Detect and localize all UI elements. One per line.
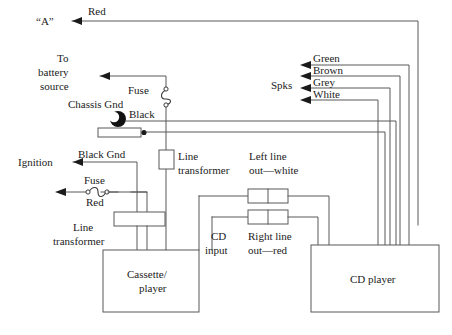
label-red-left: Red: [86, 196, 104, 208]
label-line-transformer-left-1: Line: [73, 221, 93, 233]
battery-wire-arrowhead: [100, 72, 110, 80]
label-fuse-top: Fuse: [128, 84, 149, 96]
cassette-player-box: [103, 250, 199, 312]
label-to-battery-1: To: [57, 52, 69, 64]
label-cd-input-2: input: [205, 244, 228, 256]
label-spk-grey: Grey: [313, 76, 335, 88]
label-black: Black: [129, 108, 155, 120]
label-left-line-out-2: out—white: [249, 164, 299, 176]
label-right-line-out-1: Right line: [248, 230, 292, 242]
label-fuse-left: Fuse: [84, 174, 105, 186]
line-transformer-horizontal: [114, 212, 165, 226]
red-fuse-arrowhead: [55, 188, 66, 196]
chassis-ground-icon: [109, 111, 126, 127]
label-spk-white: White: [313, 88, 340, 100]
speaker-wire-grey: [300, 84, 390, 245]
label-black-gnd: Black Gnd: [78, 148, 126, 160]
label-line-transformer-left-2: transformer: [53, 235, 105, 247]
label-cd-input-1: CD: [211, 230, 226, 242]
red-wire-arrowhead: [72, 17, 82, 25]
label-line-transformer-mid-1: Line: [178, 150, 198, 162]
label-cassette-player-1: Cassette/: [127, 268, 168, 280]
label-spk-green: Green: [313, 52, 340, 64]
wiring-diagram: Red “A” To battery source Fuse Chassis G…: [0, 0, 452, 335]
label-chassis-gnd: Chassis Gnd: [68, 98, 124, 110]
label-cassette-player-2: player: [139, 282, 167, 294]
label-red-top: Red: [88, 5, 106, 17]
label-spk-brown: Brown: [313, 64, 343, 76]
wiring-diagram-canvas: Red “A” To battery source Fuse Chassis G…: [0, 0, 452, 335]
fuse-battery-symbol: [162, 87, 171, 107]
label-cd-player: CD player: [350, 273, 396, 285]
black-gnd-wire: [73, 162, 137, 218]
label-ignition: Ignition: [18, 156, 53, 168]
label-to-battery-3: source: [40, 80, 69, 92]
label-left-line-out-1: Left line: [249, 150, 287, 162]
line-transformer-vertical: [159, 150, 174, 169]
label-to-battery-2: battery: [38, 66, 69, 78]
label-a-terminal: “A”: [36, 15, 54, 27]
label-spks: Spks: [271, 79, 292, 91]
label-right-line-out-2: out—red: [248, 244, 288, 256]
speaker-wire-white: [300, 96, 378, 245]
label-line-transformer-mid-2: transformer: [178, 164, 230, 176]
ground-connector-block: [98, 128, 385, 250]
